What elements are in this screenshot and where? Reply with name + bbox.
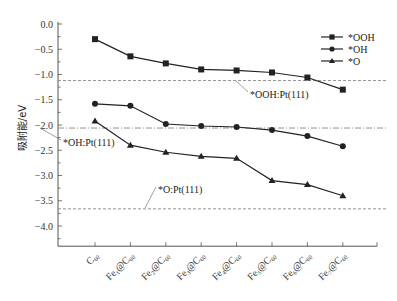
x-category-label: Fe7@C60 [316, 250, 349, 283]
y-tick-label: −1.5 [35, 94, 53, 105]
x-category-label: Fe3@C60 [174, 250, 207, 283]
data-series [92, 36, 347, 198]
adsorption-energy-chart: 0.0−0.5−1.0−1.5−2.0−2.5−3.0−3.5−4.0C60Fe… [0, 0, 397, 301]
plot-axes: 0.0−0.5−1.0−1.5−2.0−2.5−3.0−3.5−4.0C60Fe… [35, 19, 377, 283]
series-triangle [92, 117, 347, 198]
legend-label: *OH [348, 44, 367, 55]
y-tick-label: −0.5 [35, 44, 53, 55]
y-tick-label: −4.0 [35, 221, 53, 232]
y-tick-label: 0.0 [41, 19, 54, 30]
x-category-label: Fe2@C60 [139, 250, 172, 283]
y-tick-label: −3.0 [35, 170, 53, 181]
x-category-label: Fe5@C60 [245, 250, 278, 283]
y-axis-label: 吸附能/eV [16, 105, 28, 152]
reference-label: *O:Pt(111) [158, 184, 202, 196]
y-tick-label: −3.5 [35, 195, 53, 206]
x-category-label: Fe6@C60 [280, 250, 313, 283]
reference-label: *OH:Pt(111) [63, 137, 114, 149]
x-category-label: Fe1@C60 [103, 250, 136, 283]
x-category-label: Fe4@C60 [210, 250, 243, 283]
legend-label: *O [348, 56, 360, 67]
y-tick-label: −1.0 [35, 69, 53, 80]
series-square [92, 36, 346, 93]
reference-label: *OOH:Pt(111) [250, 89, 309, 101]
x-category-label: C60 [84, 250, 101, 267]
series-circle [92, 101, 346, 149]
y-tick-label: −2.0 [35, 120, 53, 131]
y-tick-label: −2.5 [35, 145, 53, 156]
legend: *OOH*OH*O [321, 32, 375, 67]
legend-label: *OOH [348, 32, 375, 43]
